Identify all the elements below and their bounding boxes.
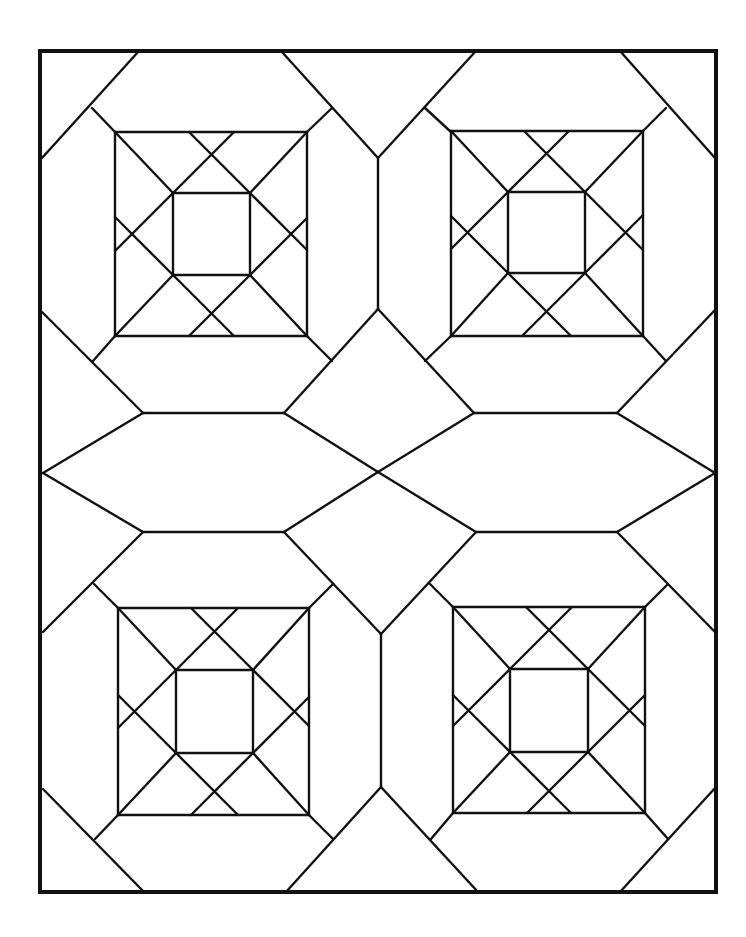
cross-diagonal bbox=[510, 607, 572, 669]
pattern-line bbox=[431, 813, 453, 839]
cross-diagonal bbox=[588, 669, 645, 726]
cross-diagonal bbox=[451, 192, 508, 249]
cross-diagonal bbox=[585, 192, 643, 250]
pattern-line bbox=[381, 532, 476, 634]
cross-diagonal bbox=[508, 131, 569, 192]
pattern-line bbox=[425, 108, 451, 132]
corner-diagonal bbox=[118, 608, 176, 670]
cross-diagonal bbox=[176, 608, 238, 670]
cross-diagonal bbox=[115, 217, 173, 275]
corner-diagonal bbox=[118, 753, 176, 815]
block-bottom-right bbox=[453, 607, 645, 813]
pattern-line bbox=[378, 413, 474, 472]
corner-diagonal bbox=[250, 132, 307, 193]
pattern-line bbox=[425, 336, 451, 361]
quilt-pattern-diagram bbox=[0, 0, 746, 937]
pattern-line bbox=[430, 584, 453, 607]
corner-diagonal bbox=[588, 752, 645, 813]
pattern-lines bbox=[42, 51, 716, 892]
pattern-line bbox=[95, 815, 118, 839]
cross-diagonal bbox=[115, 193, 173, 251]
cross-diagonal bbox=[253, 670, 309, 726]
corner-diagonal bbox=[453, 607, 510, 669]
cross-diagonal bbox=[526, 607, 588, 669]
cross-diagonal bbox=[253, 697, 309, 753]
cross-diagonal bbox=[250, 193, 307, 250]
corner-diagonal bbox=[451, 273, 508, 336]
cross-diagonal bbox=[453, 669, 510, 726]
cross-diagonal bbox=[510, 752, 571, 813]
cross-diagonal bbox=[250, 218, 307, 275]
corner-diagonal bbox=[588, 607, 645, 669]
pattern-line bbox=[307, 336, 332, 361]
pattern-line bbox=[284, 413, 378, 472]
cross-diagonal bbox=[176, 753, 238, 815]
pattern-line bbox=[43, 473, 143, 532]
pattern-line bbox=[94, 584, 118, 608]
block-top-left bbox=[115, 132, 307, 336]
pattern-line bbox=[617, 473, 715, 532]
corner-diagonal bbox=[253, 753, 309, 815]
pattern-line bbox=[307, 108, 332, 132]
corner-diagonal bbox=[453, 752, 510, 813]
cross-diagonal bbox=[522, 273, 585, 336]
corner-diagonal bbox=[115, 275, 173, 336]
pattern-line bbox=[378, 472, 476, 532]
cross-diagonal bbox=[588, 695, 645, 752]
pattern-line bbox=[645, 584, 668, 607]
cross-diagonal bbox=[524, 131, 585, 192]
block-top-right bbox=[451, 131, 643, 336]
pattern-line bbox=[43, 413, 143, 473]
cross-diagonal bbox=[191, 753, 253, 815]
cross-diagonal bbox=[173, 275, 234, 336]
cross-diagonal bbox=[191, 608, 253, 670]
corner-diagonal bbox=[585, 273, 643, 336]
cross-diagonal bbox=[508, 273, 571, 336]
pattern-line bbox=[309, 584, 333, 608]
pattern-line bbox=[92, 108, 115, 132]
pattern-line bbox=[643, 336, 666, 361]
cross-diagonal bbox=[189, 132, 250, 193]
cross-diagonal bbox=[585, 215, 643, 273]
block-bottom-left bbox=[118, 608, 309, 815]
corner-diagonal bbox=[585, 131, 643, 192]
cross-diagonal bbox=[173, 132, 234, 193]
cross-diagonal bbox=[527, 752, 588, 813]
corner-diagonal bbox=[250, 275, 307, 336]
pattern-line bbox=[617, 413, 715, 473]
cross-diagonal bbox=[189, 275, 250, 336]
pattern-line bbox=[309, 815, 333, 839]
cross-diagonal bbox=[118, 670, 176, 728]
cross-diagonal bbox=[451, 216, 508, 273]
corner-diagonal bbox=[451, 131, 508, 192]
pattern-line bbox=[284, 472, 378, 532]
pattern-line bbox=[645, 813, 668, 839]
cross-diagonal bbox=[453, 695, 510, 752]
cross-diagonal bbox=[118, 695, 176, 753]
corner-diagonal bbox=[115, 132, 173, 193]
pattern-line bbox=[620, 51, 715, 158]
pattern-line bbox=[643, 108, 666, 131]
pattern-line bbox=[93, 336, 115, 361]
pattern-line bbox=[42, 312, 143, 413]
corner-diagonal bbox=[253, 608, 309, 670]
pattern-line bbox=[617, 532, 715, 632]
